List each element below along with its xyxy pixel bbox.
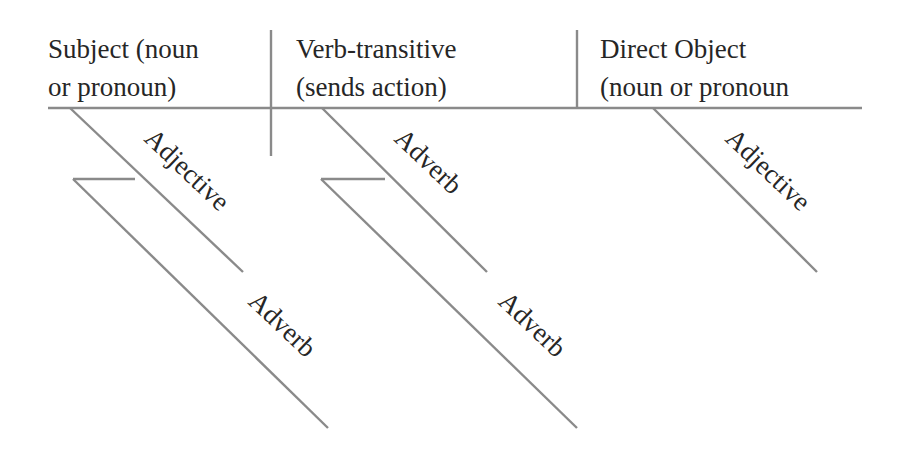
object-header-line1: Direct Object (600, 34, 747, 64)
subject-adverb-line (73, 179, 328, 428)
sentence-diagram: Subject (noun or pronoun) Verb-transitiv… (0, 0, 912, 456)
verb-header-line1: Verb-transitive (296, 34, 456, 64)
verb-adverb-modifier-label: Adverb (493, 286, 572, 364)
object-header-line2: (noun or pronoun (600, 72, 789, 102)
verb-header-line2: (sends action) (296, 72, 447, 102)
subject-adverb-label: Adverb (243, 286, 322, 364)
subject-header-line2: or pronoun) (48, 72, 176, 102)
object-adjective-label: Adjective (720, 123, 817, 217)
verb-adverb-label: Adverb (389, 123, 468, 201)
verb-adverb-modifier-line (321, 179, 577, 428)
subject-adjective-label: Adjective (139, 123, 236, 217)
subject-header-line1: Subject (noun (48, 34, 199, 64)
